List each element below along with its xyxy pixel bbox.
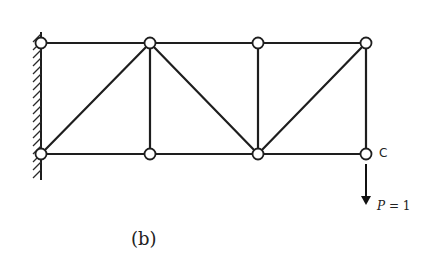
node-b-top [145, 38, 156, 49]
node-c [361, 149, 372, 160]
node-b-bottom [145, 149, 156, 160]
load-value: = 1 [385, 199, 410, 213]
figure-caption: (b) [131, 228, 157, 249]
diagonal-3 [258, 43, 366, 154]
node-a-bottom [36, 149, 47, 160]
node-c-label: C [379, 146, 387, 160]
node-e-top [361, 38, 372, 49]
node-a-top [36, 38, 47, 49]
truss-diagram [0, 0, 438, 262]
node-d-bottom [253, 149, 264, 160]
load-label: P = 1 [377, 199, 410, 213]
load-arrow-icon [361, 164, 371, 205]
node-d-top [253, 38, 264, 49]
load-symbol: P [377, 199, 385, 213]
diagonal-2 [150, 43, 258, 154]
truss-members [41, 43, 366, 154]
truss-figure: C P = 1 (b) [0, 0, 438, 262]
diagonal-1 [41, 43, 150, 154]
